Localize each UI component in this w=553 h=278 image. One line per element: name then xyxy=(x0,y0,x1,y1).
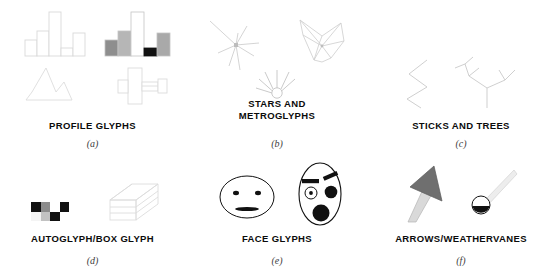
panel-c-caption: STICKS AND TREES xyxy=(369,120,553,132)
box-profile-glyph xyxy=(118,68,167,104)
glyph-taxonomy-figure: PROFILE GLYPHS (a) xyxy=(0,0,553,278)
panel-a-caption: PROFILE GLYPHS xyxy=(0,120,185,132)
panel-f-artwork xyxy=(369,160,553,230)
panel-e-artwork xyxy=(185,160,369,230)
panel-d-artwork xyxy=(0,160,185,230)
panel-a: PROFILE GLYPHS (a) xyxy=(0,0,185,150)
panel-c: STICKS AND TREES (c) xyxy=(369,0,553,150)
face-mouth xyxy=(235,207,259,211)
face-left-eye xyxy=(233,191,239,195)
outline-bar-profile-glyph xyxy=(25,12,85,56)
face-glyph-expressive xyxy=(299,163,341,225)
tree-glyph xyxy=(455,57,515,108)
box-glyph xyxy=(110,184,158,220)
panel-c-sublabel: (c) xyxy=(369,138,553,149)
weathervane-glyph xyxy=(472,170,517,214)
panel-e-sublabel: (e) xyxy=(185,255,369,266)
face-right-eye xyxy=(255,191,261,195)
panel-b-sublabel: (b) xyxy=(185,138,369,149)
face-glyph-neutral xyxy=(220,176,274,218)
panel-b-artwork xyxy=(185,0,369,110)
panel-d-sublabel: (d) xyxy=(0,255,185,266)
panel-d-caption: AUTOGLYPH/BOX GLYPH xyxy=(0,233,185,245)
metroglyph xyxy=(256,70,295,98)
panel-f-sublabel: (f) xyxy=(369,255,553,266)
panel-f: ARROWS/WEATHERVANES (f) xyxy=(369,160,553,278)
panel-a-artwork xyxy=(0,0,185,115)
arrow-glyph xyxy=(408,166,442,222)
panel-f-caption: ARROWS/WEATHERVANES xyxy=(369,233,553,245)
face-left-pupil xyxy=(309,191,313,195)
face-right-eye xyxy=(325,186,338,199)
panel-b-caption: STARS AND METROGLYPHS xyxy=(185,98,369,121)
panel-a-sublabel: (a) xyxy=(0,138,185,149)
face-mouth xyxy=(313,205,330,222)
line-profile-glyph xyxy=(26,68,72,100)
panel-b-caption-line2: METROGLYPHS xyxy=(185,110,369,122)
panel-e-caption: FACE GLYPHS xyxy=(185,233,369,245)
star-polygon-glyph xyxy=(300,20,344,62)
autoglyph xyxy=(31,202,69,221)
shaded-bar-profile-glyph xyxy=(105,12,170,56)
panel-b: STARS AND METROGLYPHS (b) xyxy=(185,0,369,150)
face-left-brow xyxy=(302,179,319,183)
panel-d: AUTOGLYPH/BOX GLYPH (d) xyxy=(0,160,185,278)
panel-b-caption-line1: STARS AND xyxy=(185,98,369,110)
panel-c-artwork xyxy=(369,0,553,115)
stick-glyph xyxy=(407,60,427,108)
star-glyph xyxy=(210,21,259,70)
panel-e: FACE GLYPHS (e) xyxy=(185,160,369,278)
